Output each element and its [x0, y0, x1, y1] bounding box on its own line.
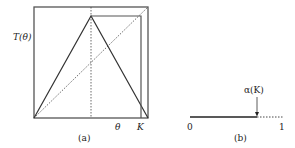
- panel-b: α(K) 0 1 (b): [187, 85, 285, 143]
- y-axis-label: T(θ): [13, 32, 32, 42]
- one-label: 1: [279, 122, 285, 132]
- orbit-box: [91, 16, 141, 118]
- alpha-arrow-head: [255, 112, 259, 117]
- alpha-K-label: α(K): [244, 85, 264, 95]
- caption-a: (a): [78, 133, 90, 143]
- theta-label: θ: [115, 122, 121, 132]
- caption-b: (b): [234, 133, 247, 143]
- figure: T(θ) θ K (a) α(K) 0 1 (b): [0, 0, 295, 148]
- K-label: K: [136, 122, 145, 132]
- zero-label: 0: [187, 122, 193, 132]
- panel-a: T(θ) θ K (a): [13, 7, 148, 143]
